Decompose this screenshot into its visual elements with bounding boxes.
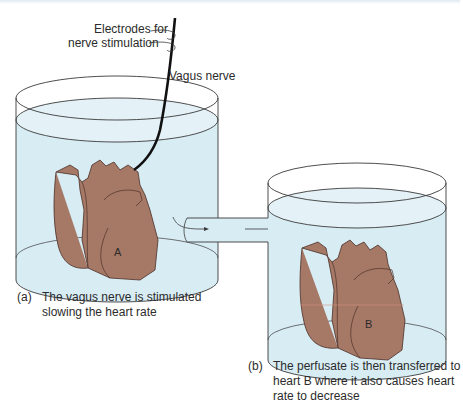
electrodes-label-line2: nerve stimulation [68, 36, 159, 51]
caption-a-line2: slowing the heart rate [17, 305, 217, 320]
vagus-nerve-label: Vagus nerve [169, 69, 236, 84]
caption-a: (a) The vagus nerve is stimulated slowin… [17, 290, 217, 320]
electrodes-label-line1: Electrodes for [94, 22, 168, 37]
connecting-tube [184, 218, 272, 242]
caption-a-tag: (a) [17, 290, 32, 305]
caption-b-line1: The perfusate is then transferred to [248, 359, 463, 374]
caption-a-line1: The vagus nerve is stimulated [17, 290, 217, 305]
caption-b-line3: rate to decrease [248, 389, 463, 404]
caption-b-line2: heart B where it also causes heart [248, 374, 463, 389]
caption-b-tag: (b) [248, 359, 263, 374]
heart-a-label: A [114, 246, 121, 258]
caption-b: (b) The perfusate is then transferred to… [248, 359, 463, 404]
heart-b-label: B [365, 318, 372, 330]
